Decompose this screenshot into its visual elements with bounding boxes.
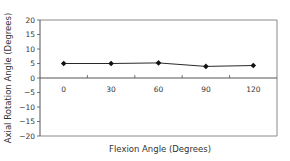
y-tick-label: −15: [19, 117, 35, 126]
x-axis: 0306090120: [40, 75, 277, 94]
data-point-diamond: [156, 60, 162, 66]
y-tick-label: 10: [25, 45, 35, 54]
x-tick-label: 120: [246, 85, 261, 94]
x-axis-title: Flexion Angle (Degrees): [109, 144, 211, 154]
y-tick-label: −20: [19, 132, 35, 141]
y-tick-label: −10: [19, 103, 35, 112]
data-point-diamond: [61, 61, 67, 67]
y-tick-label: −5: [24, 88, 35, 97]
x-tick-label: 90: [201, 85, 211, 94]
y-axis-title: Axial Rotation Angle (Degrees): [3, 13, 13, 144]
y-tick-label: 0: [30, 74, 35, 83]
chart: 20151050−5−10−15−20 0306090120 Axial Rot…: [0, 0, 290, 161]
data-point-diamond: [108, 61, 114, 67]
x-tick-label: 0: [61, 85, 66, 94]
y-tick-label: 5: [30, 59, 35, 68]
y-tick-label: 15: [25, 30, 35, 39]
data-series: [61, 60, 256, 69]
data-point-diamond: [251, 63, 257, 69]
y-axis: 20151050−5−10−15−20: [19, 16, 40, 141]
x-tick-label: 60: [154, 85, 164, 94]
y-tick-label: 20: [25, 16, 35, 25]
data-point-diamond: [203, 64, 209, 70]
x-tick-label: 30: [106, 85, 116, 94]
